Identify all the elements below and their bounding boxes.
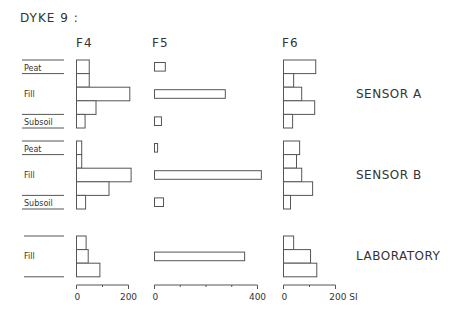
panel-title-f6: F6 (282, 36, 299, 50)
bar-sensor-b-f4-1 (77, 155, 82, 169)
x-tick-label-f4: 200 (120, 292, 137, 302)
x-tick-label-f4: 0 (75, 292, 81, 302)
layer-label-peat: Peat (24, 145, 42, 154)
bar-sensor-b-f6-1 (284, 155, 297, 169)
layer-label-peat: Peat (24, 64, 42, 73)
bar-sensor-a-f4-2 (77, 87, 130, 101)
bar-sensor-b-f4-3 (77, 182, 110, 196)
bar-sensor-b-f6-3 (284, 182, 313, 196)
bar-sensor-a-f6-2 (284, 87, 302, 101)
bar-sensor-a-f5-0 (155, 63, 166, 72)
bar-sensor-a-f5-2 (155, 90, 226, 99)
bar-sensor-a-f4-0 (77, 60, 90, 74)
bar-sensor-a-f4-4 (77, 114, 86, 128)
bar-sensor-b-f5-2 (155, 171, 262, 180)
x-tick-label-f6: 200 SI (329, 292, 357, 302)
layer-label-fill: Fill (24, 171, 35, 180)
bar-sensor-b-f5-4 (155, 198, 164, 207)
bar-sensor-b-f5-0 (155, 144, 158, 153)
x-tick-label-f5: 400 (249, 292, 266, 302)
bar-sensor-b-f6-4 (284, 195, 291, 209)
bar-sensor-a-f4-3 (77, 101, 97, 115)
dyke-chart: DYKE 9 : F4 F5 F6 SENSOR APeatFillSubsoi… (0, 0, 456, 326)
bar-sensor-b-f4-2 (77, 168, 132, 182)
bar-sensor-a-f6-0 (284, 60, 316, 74)
bar-laboratory-f6-2 (284, 263, 317, 277)
bar-laboratory-f5-1 (155, 252, 245, 261)
bar-sensor-b-f4-4 (77, 195, 86, 209)
bar-laboratory-f4-1 (77, 250, 89, 264)
bar-sensor-a-f6-4 (284, 114, 293, 128)
panel-title-f5: F5 (152, 36, 169, 50)
bar-laboratory-f6-0 (284, 236, 294, 250)
bar-sensor-a-f5-4 (155, 117, 162, 126)
bar-sensor-b-f6-2 (284, 168, 302, 182)
bar-laboratory-f6-1 (284, 250, 311, 264)
bar-sensor-a-f6-3 (284, 101, 315, 115)
bar-sensor-a-f6-1 (284, 74, 294, 88)
bar-sensor-a-f4-1 (77, 74, 90, 88)
chart-title: DYKE 9 : (20, 11, 79, 25)
bar-sensor-b-f6-0 (284, 141, 300, 155)
x-tick-label-f5: 0 (153, 292, 159, 302)
group-label-sensor-b: SENSOR B (356, 168, 422, 182)
layer-label-fill: Fill (24, 252, 35, 261)
x-tick-label-f6: 0 (282, 292, 288, 302)
bar-sensor-b-f4-0 (77, 141, 82, 155)
group-label-sensor-a: SENSOR A (356, 87, 422, 101)
bar-laboratory-f4-2 (77, 263, 100, 277)
bar-laboratory-f4-0 (77, 236, 87, 250)
group-label-laboratory: LABORATORY (356, 249, 441, 263)
layer-label-subsoil: Subsoil (24, 199, 53, 208)
panel-title-f4: F4 (76, 36, 93, 50)
layer-label-fill: Fill (24, 90, 35, 99)
layer-label-subsoil: Subsoil (24, 118, 53, 127)
